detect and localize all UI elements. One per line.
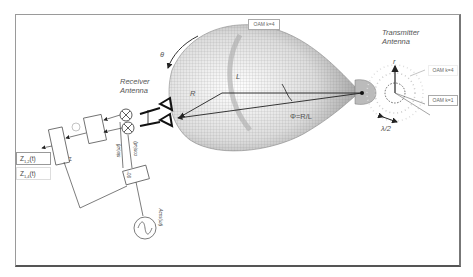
theta-label: θ: [160, 50, 164, 59]
oam-box-top: OAM k=4: [248, 19, 280, 30]
r-label: R: [190, 89, 195, 98]
circuit: [42, 114, 156, 239]
l-label: L: [236, 72, 240, 81]
receiver-antennas: [140, 98, 172, 126]
sum-label: Σ: [69, 157, 72, 162]
mixers: [120, 109, 134, 134]
sin-label: sin(ωt): [116, 144, 121, 158]
half-lambda-label: λ/2: [381, 124, 391, 133]
cos-label: cos(ωt): [133, 141, 138, 156]
transmitter-array: [367, 65, 430, 122]
oam-box-tx-lower: OAM k=1: [428, 95, 458, 106]
signal-z14: Z1,4(t): [16, 167, 51, 180]
r-radius-label: r: [393, 57, 396, 66]
radiation-pattern: [169, 25, 376, 151]
transmitter-antenna-label: Transmitter Antenna: [382, 28, 419, 46]
oam-box-tx-upper: OAM k=4: [428, 65, 458, 76]
phase-shift-label: 90°: [127, 171, 132, 178]
signal-z12: Z1,2(t): [16, 152, 51, 165]
oscillator-label: Acos(ωt): [158, 209, 163, 227]
phi-relation-label: Φ=R/L: [290, 112, 312, 121]
receiver-antenna-label: Receiver Antenna: [120, 77, 150, 95]
